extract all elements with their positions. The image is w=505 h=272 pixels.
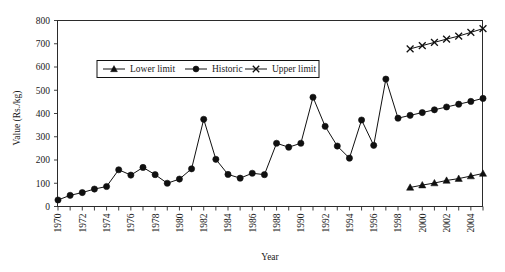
y-tick-label: 800 [36, 16, 51, 26]
circle-marker [188, 166, 194, 172]
x-tick-label: 1974 [102, 213, 112, 232]
circle-marker [261, 172, 267, 178]
y-tick-label: 100 [36, 179, 51, 189]
circle-marker [164, 180, 170, 186]
x-tick-label: 1990 [296, 213, 306, 232]
circle-marker [193, 66, 199, 72]
x-axis-ticks: 1970197219741976197819801982198419861988… [53, 207, 483, 233]
cross-marker [407, 45, 414, 52]
y-tick-label: 500 [36, 86, 51, 96]
circle-marker [407, 112, 413, 118]
line-chart: Value (Rs./kg) 0100200300400500600700800… [0, 0, 505, 272]
circle-marker [334, 143, 340, 149]
y-tick-label: 200 [36, 155, 51, 165]
x-tick-label: 1980 [175, 213, 185, 232]
circle-marker [456, 101, 462, 107]
circle-marker [371, 142, 377, 148]
legend-label: Historic [212, 64, 243, 74]
circle-marker [431, 107, 437, 113]
circle-marker [128, 172, 134, 178]
y-tick-label: 700 [36, 39, 51, 49]
x-tick-label: 1996 [369, 213, 379, 232]
series-layer [55, 25, 487, 203]
circle-marker [140, 164, 146, 170]
x-axis-label-text: Year [261, 252, 279, 262]
series-lower-limit [407, 170, 487, 190]
cross-marker [419, 42, 426, 49]
circle-marker [273, 140, 279, 146]
x-tick-label: 1994 [345, 213, 355, 232]
circle-marker [419, 109, 425, 115]
x-tick-label: 1976 [126, 213, 136, 232]
circle-marker [103, 183, 109, 189]
triangle-marker [479, 170, 486, 176]
circle-marker [91, 186, 97, 192]
circle-marker [346, 155, 352, 161]
circle-marker [310, 94, 316, 100]
circle-marker [79, 189, 85, 195]
circle-marker [298, 140, 304, 146]
circle-marker [67, 192, 73, 198]
circle-marker [249, 170, 255, 176]
y-axis-ticks: 0100200300400500600700800 [36, 16, 58, 212]
x-tick-label: 1978 [151, 213, 161, 232]
x-tick-label: 1992 [321, 213, 331, 232]
y-tick-label: 0 [45, 202, 50, 212]
circle-marker [201, 116, 207, 122]
x-tick-label: 2002 [442, 213, 452, 232]
x-tick-label: 1986 [248, 213, 258, 232]
x-tick-label: 1984 [223, 213, 233, 232]
y-tick-label: 600 [36, 62, 51, 72]
circle-marker [383, 76, 389, 82]
x-tick-label: 1988 [272, 213, 282, 232]
cross-marker [455, 33, 462, 40]
circle-marker [55, 197, 61, 203]
legend-label: Upper limit [272, 64, 316, 74]
circle-marker [358, 117, 364, 123]
y-axis-label: Value (Rs./kg) [12, 91, 23, 146]
chart-figure: Value (Rs./kg) 0100200300400500600700800… [0, 0, 505, 272]
circle-marker [468, 98, 474, 104]
cross-marker [443, 36, 450, 43]
x-tick-label: 1998 [393, 213, 403, 232]
legend-label: Lower limit [130, 64, 175, 74]
x-tick-label: 1982 [199, 213, 209, 232]
x-tick-label: 2000 [418, 213, 428, 232]
series-polyline [58, 79, 483, 200]
chart-legend[interactable]: Lower limitHistoricUpper limit [97, 61, 319, 78]
cross-marker [431, 39, 438, 46]
circle-marker [225, 171, 231, 177]
y-tick-label: 400 [36, 109, 51, 119]
circle-marker [480, 95, 486, 101]
circle-marker [176, 176, 182, 182]
x-tick-label: 2004 [466, 213, 476, 232]
circle-marker [286, 144, 292, 150]
x-tick-label: 1970 [53, 213, 63, 232]
circle-marker [443, 104, 449, 110]
circle-marker [152, 172, 158, 178]
circle-marker [213, 156, 219, 162]
x-axis-label: Year [261, 252, 279, 262]
circle-marker [322, 123, 328, 129]
circle-marker [116, 167, 122, 173]
circle-marker [237, 175, 243, 181]
series-upper-limit [407, 25, 487, 52]
circle-marker [395, 115, 401, 121]
y-tick-label: 300 [36, 132, 51, 142]
cross-marker [467, 29, 474, 36]
y-axis-label-text: Value (Rs./kg) [12, 91, 23, 146]
x-tick-label: 1972 [78, 213, 88, 232]
